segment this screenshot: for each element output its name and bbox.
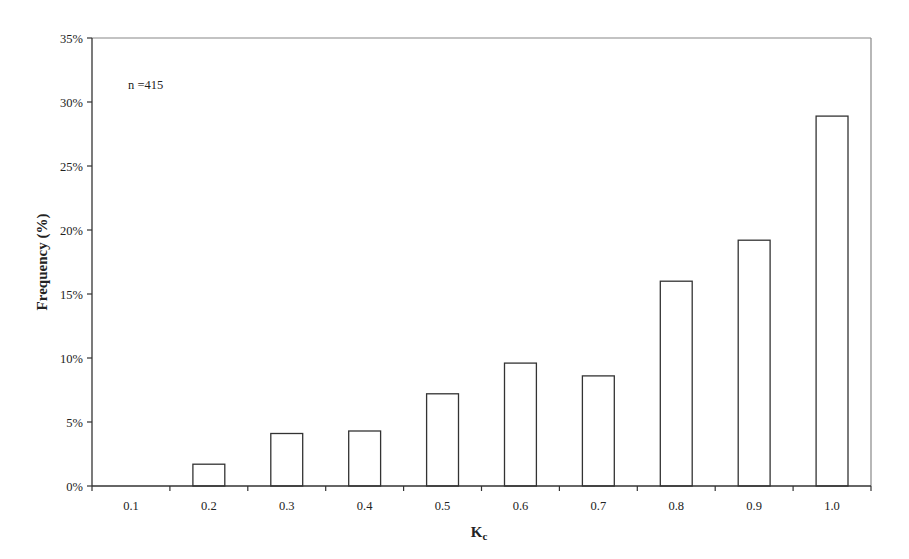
x-tick-label: 1.0 xyxy=(824,499,840,513)
x-tick-label: 0.3 xyxy=(279,499,295,513)
x-tick-label: 0.1 xyxy=(123,499,139,513)
bar-chart: 0%5%10%15%20%25%30%35% 0.10.20.30.40.50.… xyxy=(0,0,909,559)
x-axis: 0.10.20.30.40.50.60.70.80.91.0 xyxy=(92,486,871,513)
y-tick-label: 5% xyxy=(66,416,83,430)
y-tick-label: 10% xyxy=(60,352,83,366)
y-axis: 0%5%10%15%20%25%30%35% xyxy=(60,32,92,494)
x-axis-title-main: K xyxy=(471,524,483,540)
y-tick-label: 35% xyxy=(60,32,83,46)
x-tick-label: 0.9 xyxy=(746,499,762,513)
bars xyxy=(193,116,848,486)
bar-0.7 xyxy=(582,376,614,486)
bar-0.2 xyxy=(193,464,225,486)
x-tick-label: 0.7 xyxy=(591,499,607,513)
y-tick-label: 0% xyxy=(66,480,83,494)
bar-0.9 xyxy=(738,240,770,486)
x-axis-title-subscript: c xyxy=(482,530,487,542)
y-tick-label: 25% xyxy=(60,160,83,174)
x-tick-label: 0.6 xyxy=(513,499,529,513)
y-tick-label: 15% xyxy=(60,288,83,302)
sample-size-annotation: n =415 xyxy=(128,78,163,92)
bar-0.3 xyxy=(271,434,303,487)
bar-1.0 xyxy=(816,116,848,486)
bar-0.4 xyxy=(349,431,381,486)
bar-0.8 xyxy=(660,281,692,486)
bar-0.5 xyxy=(427,394,459,486)
x-axis-title: Kc xyxy=(471,524,488,542)
x-tick-label: 0.8 xyxy=(668,499,684,513)
x-tick-label: 0.5 xyxy=(435,499,451,513)
x-tick-label: 0.4 xyxy=(357,499,373,513)
bar-0.6 xyxy=(505,363,537,486)
x-tick-label: 0.2 xyxy=(201,499,217,513)
y-axis-title: Frequency (%) xyxy=(34,214,51,311)
y-tick-label: 20% xyxy=(60,224,83,238)
y-tick-label: 30% xyxy=(60,96,83,110)
